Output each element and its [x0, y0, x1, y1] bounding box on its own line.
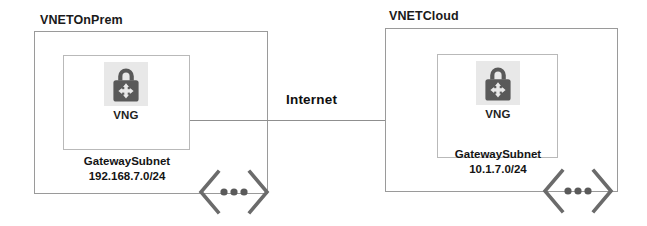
- vng-node-onprem: VNG: [91, 62, 161, 121]
- vnet-title-cloud: VNETCloud: [389, 9, 459, 23]
- subnet-caption-onprem: GatewaySubnet 192.168.7.0/24: [53, 154, 201, 184]
- expand-chevron-dots-icon-cloud[interactable]: [540, 167, 616, 215]
- vpn-gateway-lock-icon: [104, 62, 148, 106]
- vng-label-onprem: VNG: [91, 109, 161, 121]
- expand-chevron-dots-icon-onprem[interactable]: [196, 168, 272, 216]
- subnet-name-cloud: GatewaySubnet: [424, 147, 572, 162]
- subnet-prefix-onprem: 192.168.7.0/24: [53, 169, 201, 184]
- subnet-name-onprem: GatewaySubnet: [53, 154, 201, 169]
- vnet-title-onprem: VNETOnPrem: [40, 13, 123, 27]
- vng-label-cloud: VNG: [463, 108, 533, 120]
- vng-node-cloud: VNG: [463, 61, 533, 120]
- network-diagram-canvas: VNETOnPrem VNG Gatew: [0, 0, 647, 226]
- internet-label: Internet: [283, 92, 340, 107]
- vpn-gateway-lock-icon: [476, 61, 520, 105]
